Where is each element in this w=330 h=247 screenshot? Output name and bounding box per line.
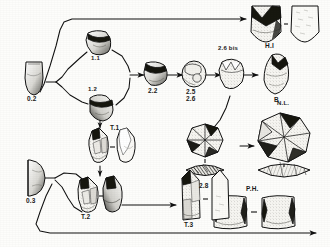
artifact-blank-12 xyxy=(90,95,113,121)
label-nodule-02: 0.2 xyxy=(27,96,37,103)
connector-nodule02-to-12 xyxy=(56,82,88,104)
label-product-ph: P.H. xyxy=(246,186,259,193)
artifact-core-28-plan xyxy=(187,124,223,157)
artifact-ph-right xyxy=(262,196,295,229)
artifact-blank-11 xyxy=(86,31,111,55)
lithic-reduction-diagram: 0.2 1.1 1.2 2.2 2.5 2.6 2.6 bis B H.I N.… xyxy=(0,0,330,247)
label-core-28: 2.8 xyxy=(199,183,209,190)
artifact-product-h1-outline xyxy=(291,6,319,42)
label-point-t1: T.1 xyxy=(110,125,119,132)
artifact-core-22 xyxy=(144,62,167,86)
artifact-core-26bis xyxy=(219,59,244,88)
label-product-nl: N.L. xyxy=(277,100,289,106)
label-point-t3: T.3 xyxy=(184,222,193,229)
artifact-nodule-02 xyxy=(25,62,43,95)
connector-12-to-merge xyxy=(116,78,130,105)
artifact-t1-left xyxy=(89,128,108,162)
label-blank-11: 1.1 xyxy=(91,55,100,61)
artifact-t3-left xyxy=(182,170,200,220)
artifact-nl-plan xyxy=(258,113,310,162)
artifact-product-h1 xyxy=(251,6,281,42)
artifact-t2-left xyxy=(78,177,98,212)
label-core-22: 2.2 xyxy=(148,88,158,95)
artifact-product-b xyxy=(264,54,289,94)
connector-nodule02-to-h1 xyxy=(40,19,246,92)
artifact-nodule-03 xyxy=(28,160,45,196)
label-nodule-03: 0.3 xyxy=(26,198,36,205)
label-point-t2: T.2 xyxy=(81,214,90,221)
label-core-26bis: 2.6 bis xyxy=(218,45,238,51)
diagram-canvas xyxy=(0,0,330,247)
label-core-26: 2.6 xyxy=(186,96,196,103)
artifact-t2-right xyxy=(103,176,122,212)
label-blank-12: 1.2 xyxy=(88,86,97,92)
label-product-h1: H.I xyxy=(265,43,274,50)
artifact-core-25-26 xyxy=(182,61,206,87)
artifact-t1-right xyxy=(117,128,135,162)
connector-11-to-merge xyxy=(112,50,130,72)
connector-nodule02-to-11 xyxy=(56,52,87,82)
artifact-t3-right xyxy=(212,170,229,220)
